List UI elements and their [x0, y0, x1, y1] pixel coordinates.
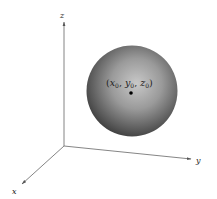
x-axis: x — [12, 146, 64, 196]
center-point-dot — [129, 91, 133, 95]
y-axis-label: y — [195, 156, 201, 165]
z-axis-label: z — [59, 11, 65, 20]
z-axis: z — [59, 11, 65, 146]
x-axis-label: x — [12, 187, 17, 196]
sphere — [87, 46, 178, 137]
y-axis: y — [64, 146, 201, 165]
diagram-canvas: z y x (x0, y0, z0) — [0, 0, 217, 199]
